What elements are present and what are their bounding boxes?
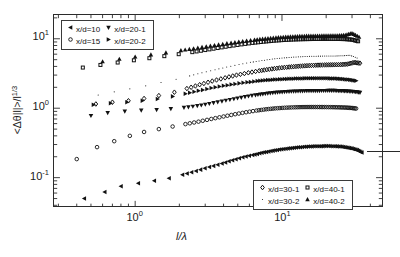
y-tick-label: 10-1 [19,170,49,182]
square-marker-icon [303,183,312,192]
series-x-d-30-1 [94,60,362,106]
legend-bottom-marker-cell [257,195,268,207]
x-axis-title: l/λ [176,230,187,242]
tick-exponent: -1 [42,168,49,177]
tick-exponent: 1 [45,28,49,37]
legend-bottom-marker-cell [257,183,268,195]
legend-bottom-label: x/d=40-2 [313,195,347,207]
legend-top-label: x/d=10 [76,23,103,35]
series-x-d-15 [75,105,358,161]
legend-top-marker-cell [103,23,114,35]
y-axis-title-exponent: 1/3 [10,86,19,96]
triangle-right-marker-icon [104,35,113,44]
y-tick-label: 101 [19,30,49,42]
x-tick-label: 101 [262,211,302,223]
legend-top-marker-cell [103,35,114,47]
legend-bottom: x/d=30-1x/d=40-1x/d=30-2x/d=40-2 [253,180,353,210]
legend-bottom-label: x/d=40-1 [313,183,347,195]
legend-bottom-row: x/d=30-2x/d=40-2 [257,195,348,207]
tick-exponent: 0 [45,98,49,107]
legend-bottom-marker-cell [302,183,313,195]
triangle-up-marker-icon [303,195,312,204]
circle-marker-icon [66,35,75,44]
diamond-marker-icon [258,183,267,192]
tick-exponent: 0 [139,209,143,218]
triangle-left-marker-icon [66,23,75,32]
dot-marker-icon [258,195,267,204]
legend-top-table: x/d=10x/d=20-1x/d=15x/d=20-2 [65,23,149,47]
legend-top-marker-cell [65,35,76,47]
x-tick-label: 100 [115,211,155,223]
legend-top-row: x/d=15x/d=20-2 [65,35,149,47]
legend-top-label: x/d=20-2 [114,35,148,47]
series-x-d-20-1 [89,89,363,118]
legend-bottom-marker-cell [302,195,313,207]
legend-bottom-label: x/d=30-1 [268,183,302,195]
legend-bottom-label: x/d=30-2 [268,195,302,207]
legend-top: x/d=10x/d=20-1x/d=15x/d=20-2 [61,20,154,50]
tick-exponent: 1 [286,209,290,218]
legend-top-label: x/d=15 [76,35,103,47]
legend-top-row: x/d=10x/d=20-1 [65,23,149,35]
legend-bottom-table: x/d=30-1x/d=40-1x/d=30-2x/d=40-2 [257,183,348,207]
legend-bottom-row: x/d=30-1x/d=40-1 [257,183,348,195]
horizontal-reference-line [367,151,400,152]
y-axis-title-main: <Δθ|l|>/l [11,96,23,134]
triangle-down-marker-icon [104,23,113,32]
legend-top-marker-cell [65,23,76,35]
y-axis-title: <Δθ|l|>/l1/3 [11,65,23,155]
legend-top-label: x/d=20-1 [114,23,148,35]
y-tick-label: 100 [19,100,49,112]
